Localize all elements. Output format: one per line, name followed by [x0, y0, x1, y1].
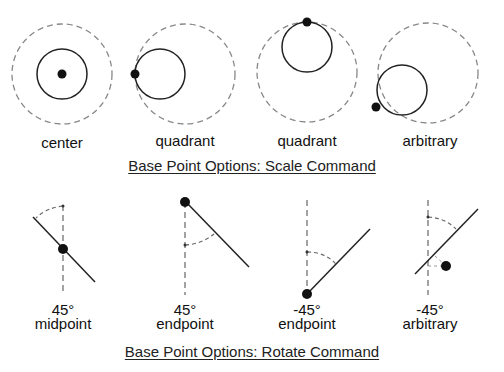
- base-point-dot: [131, 70, 140, 79]
- rotate-section-title: Base Point Options: Rotate Command: [0, 343, 504, 360]
- base-point-dot: [58, 244, 68, 254]
- scale-section-title: Base Point Options: Scale Command: [0, 157, 504, 174]
- base-point-dot: [372, 103, 381, 112]
- rotate-label-2: endpoint: [130, 316, 240, 331]
- rotate-example-endpoint-neg: [302, 200, 370, 299]
- base-point-dot: [303, 18, 312, 27]
- scale-example-quadrant-top: [257, 18, 357, 123]
- scale-label-quadrant-top: quadrant: [252, 133, 362, 148]
- base-point-dot: [180, 197, 190, 207]
- scale-label-quadrant-left: quadrant: [130, 133, 240, 148]
- rotate-example-midpoint: [33, 205, 95, 296]
- rotate-example-arbitrary: [415, 200, 478, 295]
- base-point-dot: [58, 70, 67, 79]
- scale-label-center: center: [7, 135, 117, 150]
- scale-example-center: [12, 24, 112, 124]
- rotate-label-4: arbitrary: [375, 316, 485, 331]
- scale-example-quadrant-left: [131, 24, 236, 124]
- base-point-dot: [441, 261, 451, 271]
- rotate-label-1: midpoint: [8, 316, 118, 331]
- scale-label-arbitrary: arbitrary: [375, 133, 485, 148]
- scale-section-title-text: Base Point Options: Scale Command: [128, 157, 376, 174]
- rotate-label-3: endpoint: [252, 316, 362, 331]
- scale-example-arbitrary: [372, 23, 479, 123]
- rotate-example-endpoint-pos: [180, 197, 249, 295]
- rotate-section-title-text: Base Point Options: Rotate Command: [125, 343, 379, 360]
- base-point-dot: [302, 289, 312, 299]
